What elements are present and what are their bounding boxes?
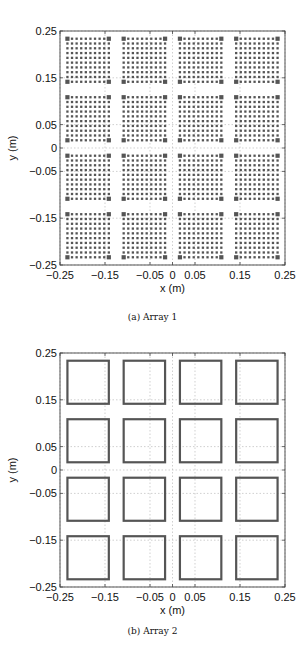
grid: [60, 31, 285, 265]
x-tick-label: 0.05: [184, 269, 205, 281]
y-tick-label: 0.25: [36, 25, 57, 37]
y-tick-label: 0: [51, 464, 57, 476]
x-tick-label: 0.25: [274, 591, 295, 603]
y-tick-label: −0.05: [29, 487, 57, 499]
y-tick-label: 0.05: [36, 441, 57, 453]
y-tick-label: 0.05: [36, 119, 57, 131]
x-tick-label: −0.15: [91, 269, 119, 281]
y-axis-label: y (m): [6, 135, 18, 160]
x-axis-label: x (m): [160, 282, 185, 294]
figure-caption: (b) Array 2: [128, 626, 178, 636]
x-tick-label: 0: [169, 269, 175, 281]
grid: [60, 353, 285, 587]
y-tick-label: −0.05: [29, 165, 57, 177]
y-tick-label: 0.15: [36, 72, 57, 84]
y-tick-label: −0.15: [29, 534, 57, 546]
x-tick-label: 0.25: [274, 269, 295, 281]
x-tick-label: 0.15: [229, 269, 250, 281]
figure-caption: (a) Array 1: [128, 312, 177, 322]
y-tick-label: −0.15: [29, 212, 57, 224]
y-tick-label: 0: [51, 142, 57, 154]
y-tick-label: 0.25: [36, 347, 57, 359]
x-tick-label: 0.05: [184, 591, 205, 603]
x-tick-label: −0.05: [136, 269, 164, 281]
x-tick-label: 0: [169, 591, 175, 603]
y-tick-label: −0.25: [29, 581, 57, 593]
figure: −0.25−0.15−0.0500.050.150.250.250.150.05…: [0, 0, 306, 661]
y-tick-label: −0.25: [29, 259, 57, 271]
y-tick-label: 0.15: [36, 394, 57, 406]
x-tick-label: 0.15: [229, 591, 250, 603]
chart-a: −0.25−0.15−0.0500.050.150.250.250.150.05…: [6, 25, 296, 322]
y-axis-label: y (m): [6, 457, 18, 482]
chart-b: −0.25−0.15−0.0500.050.150.250.250.150.05…: [6, 347, 296, 636]
x-tick-label: −0.05: [136, 591, 164, 603]
x-tick-label: −0.15: [91, 591, 119, 603]
x-axis-label: x (m): [160, 604, 185, 616]
